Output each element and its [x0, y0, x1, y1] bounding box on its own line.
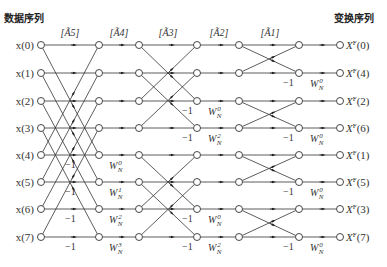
signal-node	[337, 206, 344, 213]
input-label: x(7)	[16, 231, 35, 244]
neg-one-label: −1	[65, 241, 76, 252]
output-label: XF(3)	[345, 203, 370, 216]
fft-butterfly-diagram: [Ã5][Ã4][Ã3][Ã2][Ã1]x(0)x(1)x(2)x(3)x(4)…	[0, 0, 387, 267]
neg-one-label: −1	[65, 213, 76, 224]
input-label: x(4)	[16, 149, 35, 162]
signal-node	[296, 152, 303, 159]
neg-one-label: −1	[283, 132, 294, 143]
neg-one-label: −1	[283, 241, 294, 252]
signal-node	[38, 206, 45, 213]
signal-node	[236, 152, 243, 159]
stage-label-3: [Ã3]	[159, 27, 178, 38]
signal-node	[194, 206, 201, 213]
stage-label-1: [Ã1]	[261, 27, 280, 38]
output-label: XF(1)	[345, 149, 370, 162]
signal-node	[38, 70, 45, 77]
twiddle-label: W3N	[109, 241, 123, 256]
output-label: XF(2)	[345, 95, 370, 108]
neg-one-label: −1	[65, 159, 76, 170]
output-label: XF(6)	[345, 122, 370, 135]
signal-node	[194, 42, 201, 49]
signal-node	[136, 125, 143, 132]
signal-node	[96, 70, 103, 77]
neg-one-label: −1	[65, 186, 76, 197]
signal-node	[337, 70, 344, 77]
signal-node	[194, 70, 201, 77]
input-label: x(0)	[16, 39, 35, 52]
signal-node	[236, 98, 243, 105]
signal-node	[38, 42, 45, 49]
signal-node	[194, 125, 201, 132]
signal-node	[96, 152, 103, 159]
signal-node	[337, 234, 344, 241]
signal-node	[136, 179, 143, 186]
twiddle-label: W0N	[310, 132, 324, 147]
input-label: x(5)	[16, 176, 35, 189]
signal-node	[296, 70, 303, 77]
output-label: XF(7)	[345, 231, 370, 244]
signal-node	[194, 234, 201, 241]
stage-label-2: [Ã2]	[210, 27, 229, 38]
signal-node	[236, 70, 243, 77]
signal-node	[296, 179, 303, 186]
twiddle-label: W0N	[310, 186, 324, 201]
twiddle-label: W0N	[208, 105, 222, 120]
signal-node	[38, 152, 45, 159]
signal-node	[136, 70, 143, 77]
neg-one-label: −1	[283, 77, 294, 88]
twiddle-label: W2N	[109, 213, 123, 228]
twiddle-label: W2N	[208, 132, 222, 147]
signal-node	[337, 42, 344, 49]
output-label: XF(5)	[345, 176, 370, 189]
twiddle-label: W1N	[109, 186, 123, 201]
neg-one-label: −1	[283, 186, 294, 197]
twiddle-label: W0N	[109, 159, 123, 174]
input-label: x(2)	[16, 95, 35, 108]
input-label: x(6)	[16, 203, 35, 216]
signal-node	[136, 42, 143, 49]
signal-node	[96, 234, 103, 241]
signal-node	[337, 125, 344, 132]
signal-node	[136, 98, 143, 105]
twiddle-label: W0N	[310, 241, 324, 256]
signal-node	[337, 152, 344, 159]
signal-node	[236, 179, 243, 186]
signal-node	[194, 98, 201, 105]
neg-one-label: −1	[182, 241, 193, 252]
signal-node	[337, 98, 344, 105]
signal-node	[236, 125, 243, 132]
signal-node	[296, 42, 303, 49]
signal-node	[296, 206, 303, 213]
signal-node	[136, 206, 143, 213]
signal-node	[136, 152, 143, 159]
output-label: XF(0)	[345, 39, 370, 52]
signal-node	[38, 125, 45, 132]
neg-one-label: −1	[182, 105, 193, 116]
neg-one-label: −1	[182, 132, 193, 143]
signal-node	[296, 98, 303, 105]
neg-one-label: −1	[182, 213, 193, 224]
signal-node	[38, 98, 45, 105]
twiddle-label: W2N	[208, 241, 222, 256]
stage-label-4: [Ã4]	[110, 27, 129, 38]
signal-node	[96, 42, 103, 49]
signal-node	[38, 179, 45, 186]
input-label: x(1)	[16, 67, 35, 80]
signal-node	[236, 234, 243, 241]
signal-node	[38, 234, 45, 241]
signal-node	[194, 179, 201, 186]
signal-node	[96, 179, 103, 186]
signal-node	[96, 98, 103, 105]
signal-node	[236, 206, 243, 213]
signal-node	[136, 234, 143, 241]
signal-node	[296, 125, 303, 132]
signal-node	[96, 125, 103, 132]
input-label: x(3)	[16, 122, 35, 135]
signal-node	[96, 206, 103, 213]
signal-node	[194, 152, 201, 159]
signal-node	[296, 234, 303, 241]
twiddle-label: W0N	[208, 213, 222, 228]
output-label: XF(4)	[345, 67, 370, 80]
stage-label-5: [Ã5]	[61, 27, 80, 38]
twiddle-label: W0N	[310, 77, 324, 92]
